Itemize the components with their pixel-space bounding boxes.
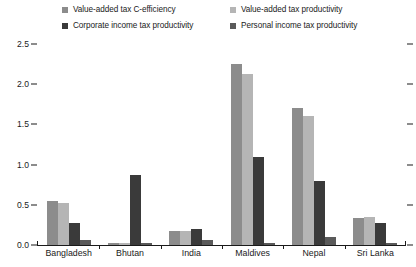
bar	[191, 229, 202, 245]
x-axis-labels: BangladeshBhutanIndiaMaldivesNepalSri La…	[38, 248, 406, 264]
bar	[314, 181, 325, 245]
legend-label: Value-added tax productivity	[241, 6, 342, 14]
y-tick-mark-right	[407, 124, 413, 125]
bar-group	[38, 44, 99, 245]
x-tick-label: Bangladesh	[38, 248, 99, 264]
legend-item-vat-c-efficiency: Value-added tax C-efficiency	[62, 6, 230, 14]
bar	[180, 231, 191, 245]
bar-group	[99, 44, 160, 245]
y-tick-mark-right	[407, 84, 413, 85]
y-tick-mark-left	[31, 124, 37, 125]
x-tick-label: Nepal	[283, 248, 344, 264]
y-tick-mark-right	[407, 204, 413, 205]
legend-label: Value-added tax C-efficiency	[73, 6, 176, 14]
bar-group	[222, 44, 283, 245]
x-tick-label: India	[161, 248, 222, 264]
bar-group	[161, 44, 222, 245]
y-tick-mark-right	[407, 44, 413, 45]
bar	[375, 223, 386, 246]
legend-item-cit-productivity: Corporate income tax productivity	[62, 22, 230, 30]
bar	[69, 223, 80, 246]
legend-swatch-icon	[230, 23, 236, 29]
bar	[47, 201, 58, 245]
bar-group	[345, 44, 406, 245]
bar-groups	[38, 44, 406, 245]
y-tick-mark-left	[31, 164, 37, 165]
y-tick-label: 1.0	[17, 160, 29, 170]
y-tick-mark-left	[31, 44, 37, 45]
plot-area: 0.00.51.01.52.02.5	[38, 44, 406, 245]
x-tick-label: Maldives	[222, 248, 283, 264]
y-tick-label: 1.5	[17, 119, 29, 129]
bar	[231, 64, 242, 245]
y-tick-mark-left	[31, 84, 37, 85]
legend-label: Corporate income tax productivity	[73, 22, 193, 30]
legend-swatch-icon	[62, 7, 68, 13]
bar	[353, 218, 364, 245]
bar	[303, 116, 314, 245]
bar	[58, 203, 69, 245]
y-tick-label: 0.0	[17, 240, 29, 250]
bar-group	[283, 44, 344, 245]
y-tick-mark-right	[407, 245, 413, 246]
x-tick-label: Bhutan	[99, 248, 160, 264]
legend-item-vat-productivity: Value-added tax productivity	[230, 6, 398, 14]
legend-swatch-icon	[62, 23, 68, 29]
grouped-bar-chart: Value-added tax C-efficiency Value-added…	[0, 0, 416, 267]
legend-label: Personal income tax productivity	[241, 22, 357, 30]
x-tick-label: Sri Lanka	[345, 248, 406, 264]
bar	[325, 237, 336, 245]
bar	[253, 157, 264, 245]
y-axis-origin-tick	[37, 241, 38, 246]
y-tick-mark-right	[407, 164, 413, 165]
y-axis-right-origin-tick	[405, 241, 406, 246]
x-axis-line	[37, 245, 406, 246]
y-tick-label: 0.5	[17, 200, 29, 210]
y-tick-label: 2.5	[17, 39, 29, 49]
bar	[242, 74, 253, 245]
y-tick-label: 2.0	[17, 79, 29, 89]
legend-item-pit-productivity: Personal income tax productivity	[230, 22, 398, 30]
chart-legend: Value-added tax C-efficiency Value-added…	[62, 2, 412, 34]
bar	[169, 231, 180, 245]
legend-swatch-icon	[230, 7, 236, 13]
bar	[364, 217, 375, 245]
y-tick-mark-left	[31, 204, 37, 205]
bar	[130, 175, 141, 245]
bar	[292, 108, 303, 245]
